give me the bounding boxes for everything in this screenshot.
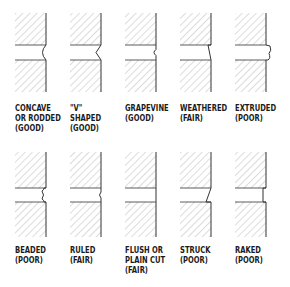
struck-label: STRUCK(POOR)	[180, 245, 210, 265]
grapevine-label: GRAPEVINE(GOOD)	[125, 103, 169, 123]
weathered-label-line: (FAIR)	[180, 113, 227, 123]
extruded-label: EXTRUDED(POOR)	[235, 103, 276, 123]
concave-label-line: CONCAVE	[15, 103, 61, 113]
grapevine-label-line: (GOOD)	[125, 113, 169, 123]
weathered-label: WEATHERED(FAIR)	[180, 103, 227, 123]
joint-diagram	[0, 0, 290, 287]
grapevine-joint-drawing	[125, 13, 156, 92]
v-shaped-label: "V"SHAPED(GOOD)	[70, 103, 101, 133]
concave-label: CONCAVEOR RODDED(GOOD)	[15, 103, 61, 133]
flush-label: FLUSH ORPLAIN CUT(FAIR)	[125, 245, 165, 275]
v-shaped-joint-drawing	[70, 13, 101, 92]
beaded-label-line: (POOR)	[15, 255, 46, 265]
beaded-joint-drawing	[15, 152, 46, 237]
struck-label-line: (POOR)	[180, 255, 210, 265]
ruled-label: RULED(FAIR)	[70, 245, 95, 265]
extruded-joint-drawing	[235, 13, 271, 92]
ruled-label-line: RULED	[70, 245, 95, 255]
flush-label-line: PLAIN CUT	[125, 255, 165, 265]
extruded-label-line: (POOR)	[235, 113, 276, 123]
beaded-label: BEADED(POOR)	[15, 245, 46, 265]
v-shaped-label-line: SHAPED	[70, 113, 101, 123]
ruled-label-line: (FAIR)	[70, 255, 95, 265]
struck-label-line: STRUCK	[180, 245, 210, 255]
extruded-label-line: EXTRUDED	[235, 103, 276, 113]
raked-label: RAKED(POOR)	[235, 245, 263, 265]
flush-label-line: (FAIR)	[125, 265, 165, 275]
v-shaped-label-line: "V"	[70, 103, 101, 113]
flush-label-line: FLUSH OR	[125, 245, 165, 255]
v-shaped-label-line: (GOOD)	[70, 123, 101, 133]
weathered-label-line: WEATHERED	[180, 103, 227, 113]
weathered-joint-drawing	[180, 13, 211, 92]
concave-label-line: OR RODDED	[15, 113, 61, 123]
flush-joint-drawing	[125, 152, 156, 237]
struck-joint-drawing	[180, 152, 211, 237]
concave-label-line: (GOOD)	[15, 123, 61, 133]
raked-label-line: RAKED	[235, 245, 263, 255]
raked-joint-drawing	[235, 152, 266, 237]
beaded-label-line: BEADED	[15, 245, 46, 255]
raked-label-line: (POOR)	[235, 255, 263, 265]
ruled-joint-drawing	[70, 152, 101, 237]
grapevine-label-line: GRAPEVINE	[125, 103, 169, 113]
concave-joint-drawing	[15, 13, 46, 92]
